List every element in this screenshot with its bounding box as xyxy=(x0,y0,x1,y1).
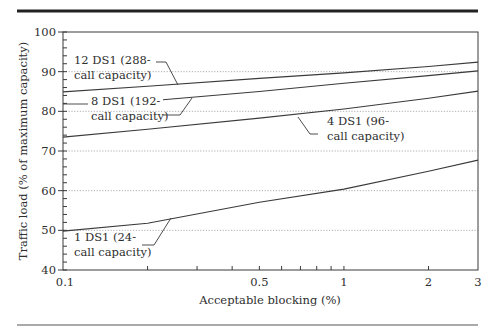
chart: 4050607080901000.10.5123 12 DS1 (288-cal… xyxy=(0,0,496,334)
y-tick-label: 70 xyxy=(41,144,56,158)
leader-line xyxy=(298,117,318,134)
y-tick-label: 50 xyxy=(41,223,56,237)
series-label: call capacity) xyxy=(74,68,152,82)
series-label: 12 DS1 (288- xyxy=(74,53,151,67)
leader-line xyxy=(156,62,178,85)
series-labels: 12 DS1 (288-call capacity)8 DS1 (192-cal… xyxy=(63,53,405,259)
series-line xyxy=(63,160,478,231)
y-tick-label: 100 xyxy=(34,25,56,39)
y-tick-label: 90 xyxy=(41,65,56,79)
y-tick-label: 60 xyxy=(41,184,56,198)
series-label: 1 DS1 (24- xyxy=(74,230,136,244)
series-line xyxy=(163,71,478,100)
series-label: 4 DS1 (96- xyxy=(327,114,389,128)
x-tick-label: 0.1 xyxy=(56,275,74,289)
x-axis-title: Acceptable blocking (%) xyxy=(198,293,341,307)
y-tick-label: 40 xyxy=(41,263,56,277)
x-tick-label: 2 xyxy=(425,275,432,289)
x-tick-label: 0.5 xyxy=(250,275,268,289)
y-tick-label: 80 xyxy=(41,104,56,118)
series-label: call capacity) xyxy=(327,129,405,143)
series-lines xyxy=(63,62,478,231)
y-axis-title: Traffic load (% of maximum capacity) xyxy=(16,42,30,260)
series-label: call capacity) xyxy=(74,245,152,259)
x-tick-label: 1 xyxy=(340,275,347,289)
series-label: call capacity) xyxy=(91,109,169,123)
series-label: 8 DS1 (192- xyxy=(91,94,160,108)
x-tick-label: 3 xyxy=(474,275,481,289)
